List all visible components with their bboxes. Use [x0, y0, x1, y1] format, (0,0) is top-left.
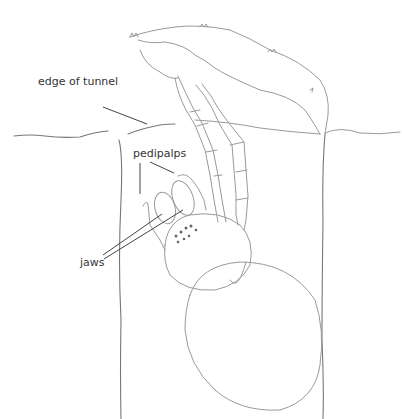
ground-line-right: [325, 130, 400, 134]
leader-pedipalps-right: [150, 162, 174, 173]
trapdoor-lid-fringe: [130, 24, 313, 92]
pedipalp-left: [143, 202, 165, 250]
tunnel-wall-right: [322, 134, 325, 419]
illustration-drawing: [0, 0, 402, 419]
abdomen: [185, 262, 322, 410]
ground-line-middle: [128, 124, 175, 134]
leg-2-outer: [202, 84, 248, 230]
spider-burrow-illustration: edge of tunnel pedipalps jaws: [0, 0, 402, 419]
leader-jaws-2: [104, 210, 183, 259]
trapdoor-lid-inner: [138, 40, 320, 134]
leader-edge-of-tunnel: [103, 107, 147, 124]
leader-jaws-1: [103, 214, 162, 255]
label-edge-of-tunnel: edge of tunnel: [38, 76, 118, 87]
label-jaws: jaws: [80, 257, 105, 268]
label-pedipalps: pedipalps: [133, 148, 186, 159]
trapdoor-lid-bottom: [140, 50, 320, 134]
tunnel-wall-left: [119, 140, 122, 419]
jaw-right: [167, 178, 198, 219]
ground-line-left: [14, 131, 108, 137]
eye-cluster: [175, 225, 198, 244]
